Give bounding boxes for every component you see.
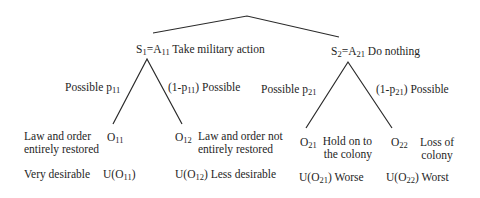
outcome-o12-utility: U(O12) Less desirable <box>175 168 276 181</box>
a21-subscript: 21 <box>356 49 365 59</box>
outcome-o22-utility: U(O22) Worst <box>386 171 449 184</box>
prob-subscript: 11 <box>112 85 120 95</box>
outcome-o21-rating: Worse <box>334 171 363 183</box>
utility-suffix: ) <box>204 168 208 180</box>
utility-suffix: ) <box>328 171 332 183</box>
outcome-o11-rating: Very desirable <box>24 168 90 181</box>
outcome-o12-description: Law and order not entirely restored <box>198 130 283 156</box>
desc-line-2: colony <box>415 149 459 162</box>
utility-subscript: 12 <box>195 172 204 182</box>
s1-eq: =A <box>147 43 162 55</box>
outcome-o12-rating: Less desirable <box>211 168 276 180</box>
prob-text: (1-p <box>168 81 187 93</box>
strategy-s1-label: S1=A11 Take military action <box>136 43 265 56</box>
outcome-subscript: 21 <box>308 140 317 150</box>
branch-s2-right-prob: (1-p21) Possible <box>376 83 449 96</box>
desc-line-2: entirely restored <box>24 143 99 156</box>
outcome-o12-symbol: O12 <box>175 131 192 144</box>
utility-suffix: ) <box>132 168 136 180</box>
outcome-subscript: 11 <box>115 135 123 145</box>
outcome-o21-description: Hold on to the colony <box>321 135 372 161</box>
outcome-o11-utility: U(O11) <box>103 168 135 181</box>
prob-text: Possible p <box>261 83 308 95</box>
utility-prefix: U(O <box>175 168 195 180</box>
utility-subscript: 21 <box>319 175 328 185</box>
prob-subscript: 21 <box>395 87 404 97</box>
s2-eq: =A <box>342 45 357 57</box>
root-branches <box>153 16 339 37</box>
desc-line-1: Loss of <box>415 136 459 149</box>
outcome-o22-rating: Worst <box>421 171 448 183</box>
prob-suffix: ) Possible <box>404 83 449 95</box>
s1-description: Take military action <box>172 43 264 55</box>
outcome-subscript: 22 <box>399 140 408 150</box>
prob-suffix: ) Possible <box>195 81 240 93</box>
desc-line-1: Law and order <box>24 130 99 143</box>
branch-s2-left-prob: Possible p21 <box>261 83 316 96</box>
prob-text: (1-p <box>376 83 395 95</box>
utility-subscript: 11 <box>123 172 131 182</box>
outcome-o11-description: Law and order entirely restored <box>24 130 99 156</box>
outcome-subscript: 12 <box>183 135 192 145</box>
utility-subscript: 22 <box>406 175 415 185</box>
prob-subscript: 21 <box>308 87 317 97</box>
branch-s1-left-prob: Possible p11 <box>65 81 120 94</box>
branch-s1-right-prob: (1-p11) Possible <box>168 81 240 94</box>
outcome-o22-symbol: O22 <box>391 136 408 149</box>
desc-line-2: the colony <box>321 148 372 161</box>
utility-prefix: U(O <box>103 168 123 180</box>
s2-description: Do nothing <box>368 45 420 57</box>
desc-line-1: Law and order not <box>198 130 283 143</box>
utility-prefix: U(O <box>386 171 406 183</box>
desc-line-2: entirely restored <box>198 143 283 156</box>
desc-line-1: Hold on to <box>321 135 372 148</box>
a11-subscript: 11 <box>161 47 169 57</box>
strategy-s2-label: S2=A21 Do nothing <box>331 45 420 58</box>
utility-prefix: U(O <box>299 171 319 183</box>
prob-text: Possible p <box>65 81 112 93</box>
outcome-o22-description: Loss of colony <box>415 136 459 162</box>
utility-suffix: ) <box>415 171 419 183</box>
outcome-o21-utility: U(O21) Worse <box>299 171 364 184</box>
outcome-o21-symbol: O21 <box>300 136 317 149</box>
outcome-o11-symbol: O11 <box>107 131 124 144</box>
